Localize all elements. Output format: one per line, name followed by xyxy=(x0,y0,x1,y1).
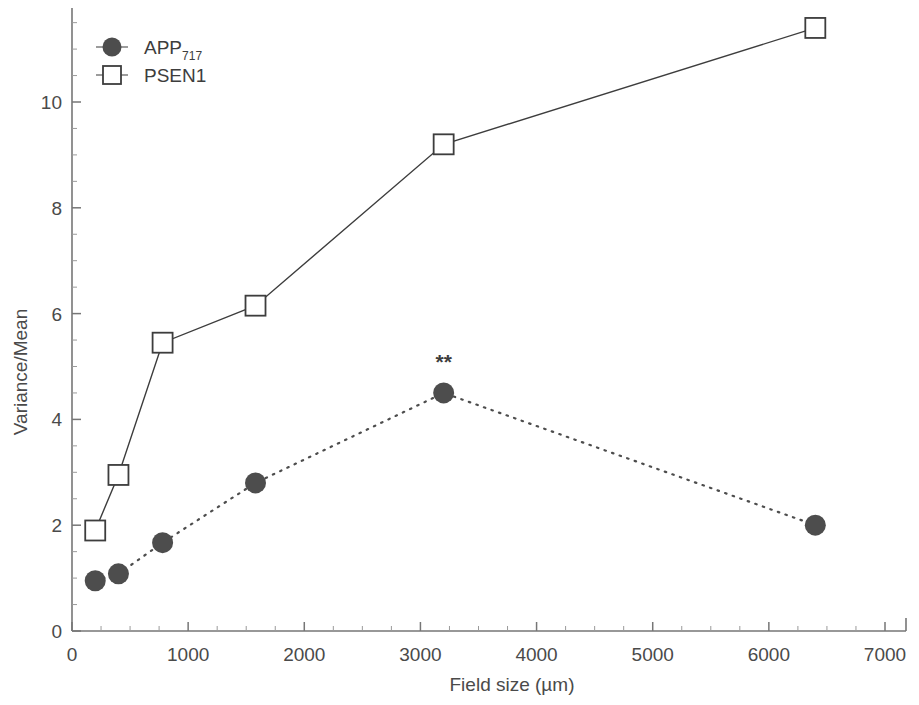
legend-marker-open-square-icon xyxy=(103,66,121,84)
x-tick-label: 0 xyxy=(67,644,78,665)
legend-marker-filled-circle-icon xyxy=(103,38,122,57)
legend-entry-label: APP717 xyxy=(144,37,202,63)
data-point-app717 xyxy=(85,570,106,591)
x-tick-label: 5000 xyxy=(632,644,674,665)
y-tick-label: 2 xyxy=(51,515,62,536)
x-tick-label: 6000 xyxy=(748,644,790,665)
y-tick-label: 6 xyxy=(51,304,62,325)
data-point-app717 xyxy=(805,515,826,536)
data-point-psen1 xyxy=(153,333,173,353)
x-axis-tick-labels: 01000200030004000500060007000 xyxy=(67,644,906,665)
x-tick-label: 2000 xyxy=(283,644,325,665)
significance-annotation: ** xyxy=(435,350,452,373)
data-point-psen1 xyxy=(434,134,454,154)
y-axis-ticks xyxy=(72,23,81,631)
chart-legend: APP717PSEN1 xyxy=(96,37,206,86)
chart-plot-area: 0246810 01000200030004000500060007000 Va… xyxy=(0,0,919,705)
y-tick-label: 10 xyxy=(41,92,62,113)
data-point-psen1 xyxy=(85,520,105,540)
data-point-app717 xyxy=(108,563,129,584)
y-tick-label: 4 xyxy=(51,409,62,430)
data-point-app717 xyxy=(152,532,173,553)
y-tick-label: 8 xyxy=(51,198,62,219)
x-tick-label: 3000 xyxy=(399,644,441,665)
data-point-psen1 xyxy=(246,296,266,316)
legend-entry-subscript: 717 xyxy=(182,49,202,63)
x-tick-label: 4000 xyxy=(515,644,557,665)
data-point-psen1 xyxy=(805,18,825,38)
x-axis-title: Field size (µm) xyxy=(450,674,575,695)
data-point-app717 xyxy=(433,382,454,403)
series-line-psen1 xyxy=(95,28,815,531)
series-lines xyxy=(95,28,815,581)
y-axis-title: Variance/Mean xyxy=(10,309,31,435)
chart-figure: 0246810 01000200030004000500060007000 Va… xyxy=(0,0,919,705)
series-markers xyxy=(85,18,826,591)
x-tick-label: 1000 xyxy=(167,644,209,665)
x-axis-ticks xyxy=(72,622,885,631)
y-tick-label: 0 xyxy=(51,621,62,642)
data-point-psen1 xyxy=(108,465,128,485)
x-tick-label: 7000 xyxy=(864,644,906,665)
axis-lines xyxy=(72,8,906,631)
series-line-app717 xyxy=(95,393,815,581)
data-point-app717 xyxy=(245,472,266,493)
legend-entry-label: PSEN1 xyxy=(144,65,206,86)
y-axis-tick-labels: 0246810 xyxy=(41,92,63,642)
chart-annotations: ** xyxy=(435,350,452,373)
